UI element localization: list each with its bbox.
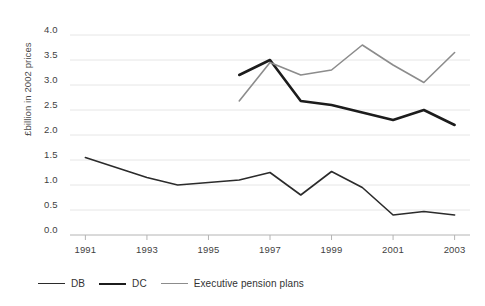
- series-line-executive-pension-plans: [239, 45, 454, 101]
- dc-line-swatch: [99, 283, 126, 285]
- y-axis-tick-label: 2.5: [44, 99, 70, 110]
- x-axis-tick-label: 1997: [250, 244, 290, 255]
- y-axis-tick-label: 0.5: [44, 199, 70, 210]
- line-chart: £billion in 2002 prices 0.00.51.01.52.02…: [0, 0, 485, 306]
- x-axis-tick-label: 1999: [312, 244, 352, 255]
- gridlines: [70, 35, 470, 235]
- legend-item-db[interactable]: DB: [38, 278, 85, 289]
- x-axis-tick-label: 1995: [188, 244, 228, 255]
- x-axis-tick-label: 1993: [127, 244, 167, 255]
- y-axis-tick-label: 1.0: [44, 174, 70, 185]
- y-axis-tick-label: 0.0: [44, 224, 70, 235]
- legend-label: DC: [132, 278, 147, 289]
- executive-line-swatch: [161, 283, 188, 284]
- legend-item-dc[interactable]: DC: [99, 278, 147, 289]
- axis-lines: [85, 235, 454, 240]
- legend-label: DB: [71, 278, 85, 289]
- legend-item-executive-pension-plans[interactable]: Executive pension plans: [161, 278, 304, 289]
- db-line-swatch: [38, 283, 65, 284]
- y-axis-tick-label: 4.0: [44, 24, 70, 35]
- y-axis-tick-label: 3.5: [44, 49, 70, 60]
- y-axis-tick-label: 1.5: [44, 149, 70, 160]
- legend-label: Executive pension plans: [194, 278, 304, 289]
- plot-area: [0, 0, 485, 306]
- x-axis-tick-label: 1991: [65, 244, 105, 255]
- y-axis-tick-label: 3.0: [44, 74, 70, 85]
- series-lines: [85, 45, 454, 215]
- chart-legend: DBDCExecutive pension plans: [38, 278, 318, 289]
- x-axis-tick-label: 2003: [435, 244, 475, 255]
- x-axis-tick-label: 2001: [373, 244, 413, 255]
- series-line-db: [85, 158, 454, 216]
- series-line-dc: [239, 60, 454, 125]
- y-axis-tick-label: 2.0: [44, 124, 70, 135]
